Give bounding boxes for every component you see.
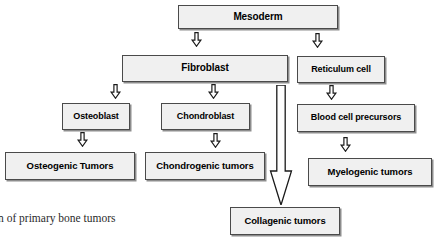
node-label: Collagenic tumors: [241, 216, 328, 226]
node-myelogenic-tumors[interactable]: Myelogenic tumors: [308, 158, 432, 186]
node-blood-cell-precursors[interactable]: Blood cell precursors: [297, 104, 415, 132]
node-label: Mesoderm: [230, 12, 285, 23]
node-label: Blood cell precursors: [308, 113, 404, 122]
node-osteogenic-tumors[interactable]: Osteogenic Tumors: [5, 152, 135, 180]
node-chondroblast[interactable]: Chondroblast: [161, 103, 250, 130]
arrow-down-icon-mesoderm-to-reticulum-cell: [310, 33, 325, 48]
node-label: Myelogenic tumors: [325, 167, 416, 177]
figure-caption: n of primary bone tumors: [0, 212, 116, 224]
node-mesoderm[interactable]: Mesoderm: [178, 5, 338, 29]
node-chondrogenic-tumors[interactable]: Chondrogenic tumors: [145, 152, 265, 180]
arrow-down-icon-fibroblast-to-chondroblast: [206, 84, 221, 99]
node-label: Fibroblast: [178, 63, 231, 74]
node-osteoblast[interactable]: Osteoblast: [62, 103, 130, 130]
node-label: Osteoblast: [70, 112, 122, 121]
node-fibroblast[interactable]: Fibroblast: [122, 55, 288, 82]
arrow-down-icon-mesoderm-to-fibroblast: [189, 32, 204, 47]
diagram-canvas: Mesoderm Fibroblast Reticulum cell Osteo…: [0, 0, 440, 242]
arrow-down-icon-chondroblast-to-chondrogenic-tumors: [208, 133, 223, 148]
node-collagenic-tumors[interactable]: Collagenic tumors: [230, 207, 340, 235]
node-label: Osteogenic Tumors: [24, 161, 117, 171]
arrow-down-icon-osteoblast-to-osteogenic-tumors: [75, 132, 90, 147]
arrow-down-icon-reticulum-to-blood-cell-precursors: [324, 85, 339, 100]
node-reticulum-cell[interactable]: Reticulum cell: [297, 56, 385, 83]
arrow-down-icon-fibroblast-to-osteoblast: [108, 84, 123, 99]
node-label: Chondroblast: [174, 112, 237, 121]
arrow-down-long-icon-fibroblast-to-collagenic-tumors: [268, 85, 294, 205]
node-label: Reticulum cell: [308, 65, 374, 74]
arrow-down-icon-blood-precursors-to-myelogenic-tumors: [338, 137, 353, 152]
node-label: Chondrogenic tumors: [153, 161, 256, 171]
